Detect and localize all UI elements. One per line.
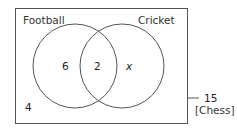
cricket-circle xyxy=(80,24,164,108)
venn-diagram: Football Cricket 6 2 x 4 15 [Chess] xyxy=(0,0,237,129)
chess-value: 15 xyxy=(204,92,217,104)
cricket-only-value: x xyxy=(125,60,133,72)
chess-label: [Chess] xyxy=(195,104,235,116)
intersection-value: 2 xyxy=(94,60,101,72)
football-circle xyxy=(33,24,117,108)
football-label: Football xyxy=(23,14,65,26)
cricket-label: Cricket xyxy=(138,14,175,26)
football-only-value: 6 xyxy=(62,60,69,72)
outside-value: 4 xyxy=(25,101,32,113)
